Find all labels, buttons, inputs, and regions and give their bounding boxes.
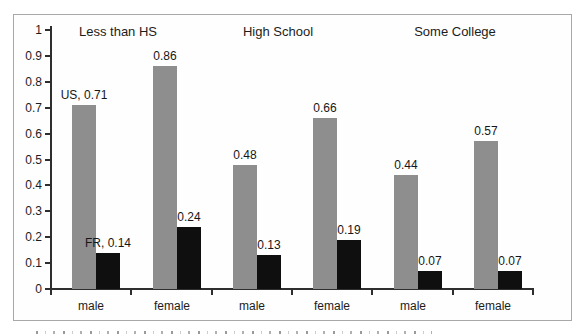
y-axis-tick-label: 0.8 xyxy=(8,75,42,89)
bar-value-label-us-3: 0.66 xyxy=(313,101,336,115)
x-axis-boundary-tick xyxy=(50,290,52,295)
bar-value-label-fr-3: 0.19 xyxy=(337,223,360,237)
bar-value-label-fr-2: 0.13 xyxy=(257,238,280,252)
bar-us-female-5 xyxy=(474,141,498,289)
y-axis-tick-label: 1 xyxy=(8,23,42,37)
y-axis-tick xyxy=(45,133,51,135)
y-axis-tick xyxy=(45,107,51,109)
x-category-label-3: female xyxy=(314,299,350,313)
x-category-label-5: female xyxy=(475,299,511,313)
x-axis-boundary-tick xyxy=(532,290,534,295)
bar-fr-male-4 xyxy=(418,271,442,289)
y-axis-tick-label: 0.5 xyxy=(8,153,42,167)
y-axis-tick-label: 0.9 xyxy=(8,49,42,63)
y-axis-tick-label: 0.1 xyxy=(8,256,42,270)
y-axis-tick-label: 0 xyxy=(8,282,42,296)
bar-us-female-3 xyxy=(313,118,337,289)
bar-us-male-0 xyxy=(72,105,96,289)
x-axis-boundary-tick xyxy=(452,290,454,295)
bar-value-label-us-4: 0.44 xyxy=(394,158,417,172)
y-axis-tick xyxy=(45,29,51,31)
x-category-label-0: male xyxy=(78,299,104,313)
bar-value-label-us-0: US, 0.71 xyxy=(61,88,108,102)
y-axis-tick-label: 0.7 xyxy=(8,101,42,115)
bar-value-label-us-1: 0.86 xyxy=(153,49,176,63)
bar-fr-male-2 xyxy=(257,255,281,289)
y-axis-tick xyxy=(45,236,51,238)
bar-us-male-2 xyxy=(233,165,257,289)
y-axis-tick-label: 0.2 xyxy=(8,230,42,244)
bar-fr-male-0 xyxy=(96,253,120,289)
group-title-some-college: Some College xyxy=(414,24,496,39)
bar-value-label-fr-0: FR, 0.14 xyxy=(85,236,131,250)
x-category-label-4: male xyxy=(400,299,426,313)
bar-value-label-fr-5: 0.07 xyxy=(498,254,521,268)
y-axis-tick xyxy=(45,210,51,212)
bar-value-label-us-2: 0.48 xyxy=(233,148,256,162)
x-category-label-2: male xyxy=(239,299,265,313)
bar-fr-female-1 xyxy=(177,227,201,289)
bar-fr-female-3 xyxy=(337,240,361,289)
y-axis-tick xyxy=(45,55,51,57)
y-axis-tick xyxy=(45,159,51,161)
bar-fr-female-5 xyxy=(498,271,522,289)
bar-us-male-4 xyxy=(394,175,418,289)
y-axis-tick-label: 0.4 xyxy=(8,178,42,192)
x-axis-boundary-tick xyxy=(130,290,132,295)
bar-value-label-fr-4: 0.07 xyxy=(418,254,441,268)
y-axis-tick-label: 0.3 xyxy=(8,204,42,218)
x-category-label-1: female xyxy=(154,299,190,313)
x-axis-boundary-tick xyxy=(211,290,213,295)
group-title-high-school: High School xyxy=(243,24,313,39)
y-axis-tick xyxy=(45,81,51,83)
bar-value-label-fr-1: 0.24 xyxy=(177,210,200,224)
x-axis-boundary-tick xyxy=(291,290,293,295)
bar-chart-figure: Less than HS High School Some College 10… xyxy=(0,0,583,336)
y-axis-tick xyxy=(45,262,51,264)
bar-us-female-1 xyxy=(153,66,177,289)
cutoff-caption-fragment xyxy=(36,331,432,334)
x-axis-boundary-tick xyxy=(371,290,373,295)
group-title-less-than-hs: Less than HS xyxy=(79,24,157,39)
y-axis-tick-label: 0.6 xyxy=(8,127,42,141)
bar-value-label-us-5: 0.57 xyxy=(474,124,497,138)
y-axis-tick xyxy=(45,184,51,186)
